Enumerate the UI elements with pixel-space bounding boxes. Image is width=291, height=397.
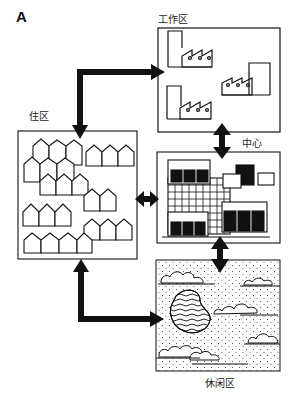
factory-icon <box>168 31 212 67</box>
center-zone <box>157 152 280 243</box>
work-zone <box>158 28 280 132</box>
zone-diagram <box>0 0 291 397</box>
arrow-residential-center <box>135 191 159 207</box>
residential-zone <box>18 131 137 259</box>
arrow-residential-leisure <box>73 259 164 327</box>
factory-icon <box>167 86 211 119</box>
house-icons <box>23 139 134 253</box>
factory-icon <box>222 63 270 95</box>
leisure-zone <box>156 260 280 371</box>
arrow-work-center <box>213 123 231 159</box>
arrow-residential-work <box>72 64 165 139</box>
